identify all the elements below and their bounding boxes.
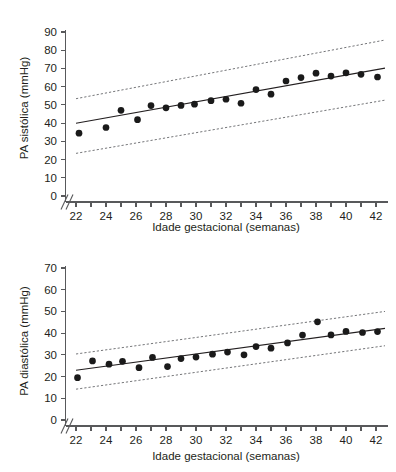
systolic-y-tick-label: 70 [44, 62, 57, 74]
diastolic-x-tick-label: 42 [370, 434, 383, 446]
diastolic-y-tick-label: 20 [44, 371, 57, 383]
systolic-y-tick-label: 50 [44, 99, 57, 111]
diastolic-x-tick-label: 32 [220, 434, 233, 446]
figure-container: 0102030405060708090222426283032343638404… [0, 0, 396, 472]
systolic-tick-labels: 0102030405060708090222426283032343638404… [44, 26, 382, 222]
systolic-y-tick-label: 10 [44, 172, 57, 184]
diastolic-y-tick-label: 60 [44, 284, 57, 296]
diastolic-y-tick-label: 40 [44, 327, 57, 339]
diastolic-x-tick-label: 38 [310, 434, 323, 446]
systolic-y-axis-title: PA sistólica (mmHg) [18, 57, 30, 160]
diastolic-y-tick-label: 70 [44, 262, 57, 274]
systolic-regression-line [76, 68, 385, 123]
diastolic-x-tick-label: 40 [340, 434, 353, 446]
systolic-x-tick-label: 22 [70, 210, 83, 222]
diastolic-y-tick-label: 10 [44, 392, 57, 404]
systolic-x-tick-label: 34 [250, 210, 263, 222]
chart-panel-systolic: 0102030405060708090222426283032343638404… [0, 0, 396, 236]
systolic-y-tick-label: 40 [44, 117, 57, 129]
diastolic-x-tick-label: 34 [250, 434, 263, 446]
systolic-x-tick-label: 32 [220, 210, 233, 222]
systolic-x-tick-label: 40 [340, 210, 353, 222]
systolic-x-tick-label: 36 [280, 210, 293, 222]
diastolic-y-tick-label: 30 [44, 349, 57, 361]
systolic-x-tick-label: 42 [370, 210, 383, 222]
diastolic-x-axis-title: Idade gestacional (semanas) [152, 450, 300, 462]
systolic-x-tick-label: 24 [100, 210, 113, 222]
systolic-x-tick-label: 26 [130, 210, 143, 222]
systolic-axes [61, 30, 389, 210]
diastolic-x-tick-label: 22 [70, 434, 83, 446]
diastolic-ci-band [76, 311, 385, 389]
diastolic-y-tick-label: 0 [51, 414, 57, 426]
diastolic-data-points [74, 319, 381, 382]
diastolic-x-tick-label: 26 [130, 434, 143, 446]
systolic-x-tick-label: 38 [310, 210, 323, 222]
diastolic-x-tick-label: 36 [280, 434, 293, 446]
systolic-y-tick-label: 80 [44, 44, 57, 56]
systolic-data-points [76, 69, 381, 136]
systolic-y-tick-label: 20 [44, 154, 57, 166]
diastolic-x-tick-label: 30 [190, 434, 203, 446]
systolic-x-axis-title: Idade gestacional (semanas) [152, 221, 300, 233]
systolic-x-tick-label: 28 [160, 210, 173, 222]
systolic-ci-band [76, 40, 385, 153]
diastolic-x-tick-label: 24 [100, 434, 113, 446]
systolic-y-tick-label: 90 [44, 26, 57, 38]
diastolic-x-tick-label: 28 [160, 434, 173, 446]
chart-panel-diastolic: 0102030405060702224262830323436384042 Id… [0, 236, 396, 472]
systolic-y-tick-label: 0 [51, 190, 57, 202]
systolic-x-tick-label: 30 [190, 210, 203, 222]
systolic-y-tick-label: 60 [44, 81, 57, 93]
systolic-scatter-plot: 0102030405060708090222426283032343638404… [0, 0, 396, 236]
diastolic-y-axis-title: PA diastólica (mmHg) [18, 286, 30, 396]
diastolic-y-tick-label: 50 [44, 305, 57, 317]
diastolic-scatter-plot: 0102030405060702224262830323436384042 Id… [0, 236, 396, 472]
systolic-y-tick-label: 30 [44, 135, 57, 147]
